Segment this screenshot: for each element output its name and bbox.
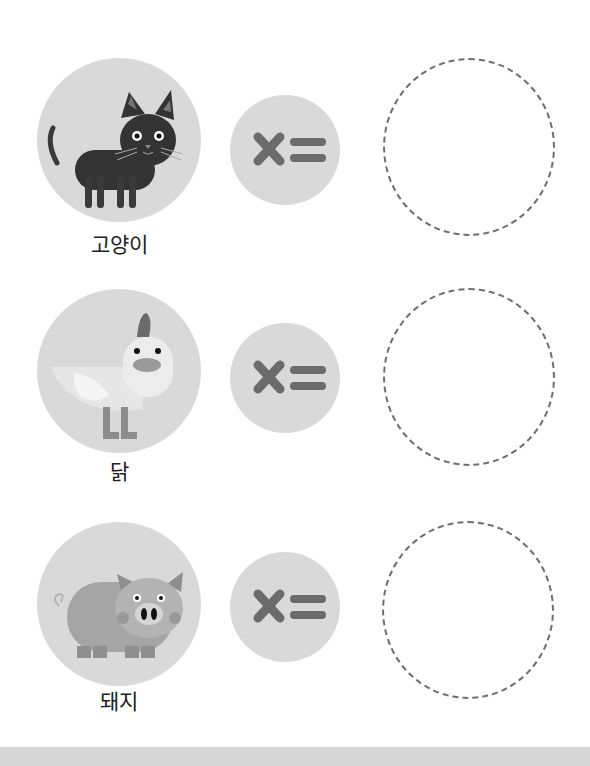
footer-band [0, 747, 590, 766]
chicken-icon [37, 289, 201, 453]
cat-icon [37, 58, 201, 222]
chicken-picture [37, 289, 201, 453]
answer-circle[interactable] [383, 58, 555, 236]
cat-picture [37, 58, 201, 222]
multiply-equals-icon [230, 323, 340, 433]
multiply-equals-icon [230, 552, 340, 662]
animal-label: 돼지 [37, 685, 201, 715]
pig-icon [37, 522, 201, 686]
answer-circle[interactable] [383, 288, 555, 466]
operator-circle [230, 323, 340, 433]
multiply-equals-icon [230, 95, 340, 205]
answer-circle[interactable] [382, 521, 554, 699]
animal-label: 고양이 [37, 228, 201, 258]
operator-circle [230, 95, 340, 205]
pig-picture [37, 522, 201, 686]
operator-circle [230, 552, 340, 662]
animal-label: 닭 [37, 455, 201, 485]
